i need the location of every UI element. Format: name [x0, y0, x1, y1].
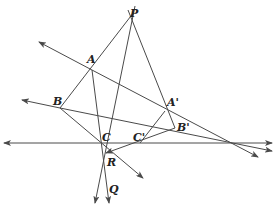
- line-P-A-prime-B-prime: [128, 10, 175, 128]
- line-BB-prime-ext: [60, 108, 272, 151]
- label-A-prime: A': [166, 96, 179, 109]
- line-B-A-P: [60, 12, 134, 108]
- desargues-diagram: P A B C A' B' C' R Q: [0, 0, 277, 209]
- line-AA-prime: [39, 42, 92, 70]
- label-P: P: [129, 7, 139, 20]
- label-R: R: [106, 156, 116, 169]
- label-C: C: [102, 131, 111, 144]
- line-P-C-prime-Q: [95, 6, 135, 203]
- label-B-prime: B': [176, 121, 190, 134]
- label-Q: Q: [109, 183, 119, 196]
- label-B: B: [52, 95, 62, 108]
- label-C-prime: C': [133, 131, 145, 144]
- line-AA-prime-ext: [92, 70, 258, 157]
- label-A: A: [86, 53, 96, 66]
